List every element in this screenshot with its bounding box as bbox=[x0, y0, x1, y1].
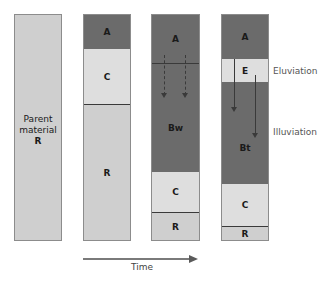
arrowhead-icon bbox=[161, 93, 167, 98]
horizon-label: A bbox=[104, 27, 111, 37]
translocation-arrow bbox=[185, 55, 187, 95]
horizon-r-parent: Parent material R bbox=[15, 110, 61, 150]
horizon-label: R bbox=[242, 229, 249, 239]
horizon-label: E bbox=[242, 66, 248, 76]
horizon-label: C bbox=[104, 72, 111, 82]
arrow-right-icon bbox=[189, 255, 198, 263]
horizon-label: A bbox=[172, 34, 179, 44]
parent-label-line2: material bbox=[19, 125, 57, 136]
time-axis-line bbox=[83, 258, 190, 260]
parent-label-line1: Parent bbox=[24, 114, 53, 125]
profile-stage-3: A E Bt C R bbox=[221, 14, 269, 241]
horizon-e: E bbox=[222, 59, 268, 82]
horizon-label: Bt bbox=[239, 143, 250, 153]
time-axis-label: Time bbox=[131, 262, 153, 272]
horizon-label: C bbox=[172, 187, 179, 197]
horizon-a: A bbox=[152, 15, 199, 63]
horizon-c: C bbox=[222, 184, 268, 226]
illuviation-label: Illuviation bbox=[273, 127, 317, 137]
arrowhead-icon bbox=[252, 133, 258, 138]
horizon-label: A bbox=[242, 32, 249, 42]
horizon-bt: Bt bbox=[222, 82, 268, 184]
profile-stage-1: A C R bbox=[83, 14, 131, 241]
horizon-label: R bbox=[104, 168, 111, 178]
horizon-r: R bbox=[84, 104, 130, 240]
arrowhead-icon bbox=[182, 93, 188, 98]
horizon-a: A bbox=[84, 15, 130, 49]
profile-parent-material: Parent material R bbox=[14, 14, 62, 241]
horizon-r: R bbox=[222, 226, 268, 240]
translocation-arrow bbox=[164, 55, 166, 95]
horizon-c: C bbox=[152, 172, 199, 212]
translocation-arrow bbox=[255, 75, 256, 135]
horizon-r: R bbox=[152, 212, 199, 240]
horizon-a: A bbox=[222, 15, 268, 59]
horizon-label: R bbox=[172, 222, 179, 232]
horizon-label: Bw bbox=[168, 123, 183, 133]
horizon-bw: Bw bbox=[152, 63, 199, 172]
arrowhead-icon bbox=[231, 107, 237, 112]
horizon-c: C bbox=[84, 49, 130, 104]
translocation-arrow bbox=[234, 59, 235, 109]
eluviation-label: Eluviation bbox=[273, 66, 317, 76]
profile-stage-2: A Bw C R bbox=[151, 14, 200, 241]
parent-label-r: R bbox=[35, 136, 42, 147]
horizon-label: C bbox=[242, 200, 249, 210]
